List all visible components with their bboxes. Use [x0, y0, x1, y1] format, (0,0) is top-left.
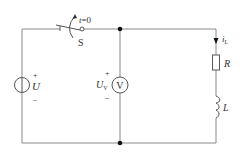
switch-motion-arc	[69, 16, 75, 38]
inductor-label: L	[222, 102, 229, 113]
current-sub: L	[225, 39, 229, 45]
junction-bottom	[118, 141, 123, 146]
source-plus-sign: +	[33, 71, 38, 80]
voltmeter-voltage-label: UV	[96, 79, 108, 91]
inductor-icon	[216, 96, 220, 118]
resistor-label: R	[223, 58, 230, 69]
source-voltage-label: U	[32, 80, 41, 92]
voltmeter-plus-sign: +	[105, 69, 110, 78]
switch-time-label: t=0	[79, 15, 92, 25]
resistor-icon	[213, 55, 220, 70]
switch-name-label: S	[78, 37, 84, 48]
circuit-diagram: + U – t=0 S V + UV – iL R L	[0, 0, 245, 153]
switch-time-eq: =0	[82, 15, 92, 25]
voltage-source-icon	[15, 78, 30, 93]
voltmeter-letter: V	[116, 80, 124, 91]
current-arrow-icon	[214, 38, 219, 44]
voltmeter-voltage-sub: V	[103, 85, 108, 91]
switch-arrow-head	[73, 14, 78, 19]
junction-top	[118, 27, 123, 32]
source-minus-sign: –	[32, 95, 38, 104]
current-label: iL	[222, 34, 229, 45]
switch-contact	[80, 27, 84, 31]
voltmeter-minus-sign: –	[104, 93, 110, 102]
